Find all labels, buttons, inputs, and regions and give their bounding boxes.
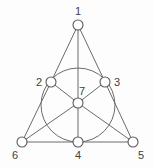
- fano-plane-svg: [0, 0, 154, 168]
- node-point-7[interactable]: [73, 98, 83, 108]
- edge-1-3: [78, 25, 105, 82]
- node-label-4: 4: [75, 150, 81, 161]
- edge-1-2: [51, 25, 78, 82]
- node-label-6: 6: [12, 150, 18, 161]
- edge-7-6: [22, 103, 78, 142]
- node-label-7: 7: [79, 86, 85, 97]
- node-point-6[interactable]: [17, 137, 27, 147]
- fano-plane-figure: 1234567: [0, 0, 154, 168]
- node-label-5: 5: [138, 150, 144, 161]
- node-point-3[interactable]: [100, 77, 110, 87]
- node-point-1[interactable]: [73, 20, 83, 30]
- node-label-1: 1: [75, 6, 81, 17]
- node-point-4[interactable]: [73, 137, 83, 147]
- edge-3-5: [105, 82, 133, 142]
- node-point-5[interactable]: [128, 137, 138, 147]
- node-point-2[interactable]: [46, 77, 56, 87]
- edge-2-6: [22, 82, 51, 142]
- node-label-2: 2: [36, 77, 42, 88]
- node-label-3: 3: [114, 77, 120, 88]
- edge-7-5: [78, 103, 133, 142]
